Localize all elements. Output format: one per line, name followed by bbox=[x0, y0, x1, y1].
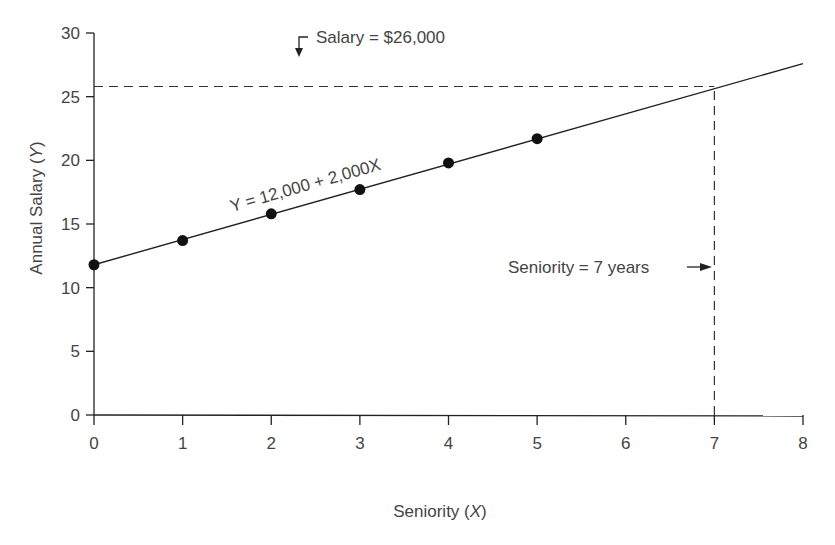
y-tick-label: 5 bbox=[71, 342, 80, 361]
salary-arrowhead-icon bbox=[295, 48, 303, 57]
data-point bbox=[266, 208, 277, 219]
seniority-annotation: Seniority = 7 years bbox=[508, 258, 649, 277]
salary-annotation: Salary = $26,000 bbox=[316, 28, 445, 47]
y-tick-label: 25 bbox=[61, 88, 80, 107]
x-tick-label: 2 bbox=[267, 434, 276, 453]
data-point bbox=[532, 133, 543, 144]
x-tick-label: 7 bbox=[710, 434, 719, 453]
x-tick-label: 5 bbox=[532, 434, 541, 453]
x-tick-label: 8 bbox=[798, 434, 807, 453]
seniority-arrowhead-icon bbox=[700, 263, 712, 271]
x-tick-label: 3 bbox=[355, 434, 364, 453]
x-tick-label: 0 bbox=[89, 434, 98, 453]
salary-seniority-chart: 051015202530 012345678 Y = 12,000 + 2,00… bbox=[0, 0, 835, 545]
y-axis-ticks: 051015202530 bbox=[61, 24, 94, 425]
x-tick-label: 6 bbox=[621, 434, 630, 453]
x-axis bbox=[94, 415, 803, 416]
data-point bbox=[354, 184, 365, 195]
y-tick-label: 30 bbox=[61, 24, 80, 43]
y-tick-label: 20 bbox=[61, 151, 80, 170]
data-point bbox=[443, 157, 454, 168]
data-point bbox=[177, 235, 188, 246]
y-axis-title: Annual Salary (Y) bbox=[27, 141, 46, 274]
data-point bbox=[89, 259, 100, 270]
y-tick-label: 10 bbox=[61, 279, 80, 298]
y-tick-label: 15 bbox=[61, 215, 80, 234]
x-tick-label: 4 bbox=[444, 434, 453, 453]
x-axis-title: Seniority (X) bbox=[393, 502, 487, 521]
x-tick-label: 1 bbox=[178, 434, 187, 453]
y-tick-label: 0 bbox=[71, 406, 80, 425]
x-axis-ticks: 012345678 bbox=[89, 415, 807, 453]
